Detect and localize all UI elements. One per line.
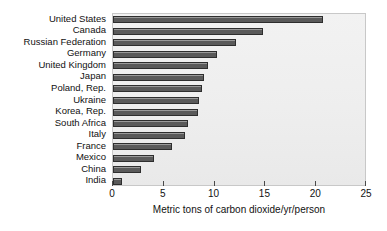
bar-series bbox=[113, 14, 365, 185]
category-label: Russian Federation bbox=[24, 37, 106, 47]
x-axis: 0510152025 bbox=[112, 186, 366, 206]
x-tick-label: 10 bbox=[208, 188, 219, 199]
bar bbox=[113, 85, 202, 92]
bar bbox=[113, 143, 172, 150]
category-label: United States bbox=[49, 14, 106, 24]
bar bbox=[113, 39, 236, 46]
x-tick-mark bbox=[214, 181, 215, 186]
category-label: Italy bbox=[89, 129, 106, 139]
category-label: Korea, Rep. bbox=[55, 106, 106, 116]
x-tick-label: 15 bbox=[259, 188, 270, 199]
x-tick-mark bbox=[264, 181, 265, 186]
category-label: India bbox=[85, 175, 106, 185]
bar bbox=[113, 28, 263, 35]
bar bbox=[113, 109, 198, 116]
category-axis: United StatesCanadaRussian FederationGer… bbox=[0, 13, 109, 186]
bar bbox=[113, 178, 122, 185]
bar bbox=[113, 132, 185, 139]
category-label: Germany bbox=[67, 48, 106, 58]
x-tick-label: 25 bbox=[360, 188, 371, 199]
x-tick-mark bbox=[365, 181, 366, 186]
bar bbox=[113, 166, 141, 173]
category-label: Ukraine bbox=[73, 95, 106, 105]
category-label: France bbox=[76, 141, 106, 151]
bar bbox=[113, 51, 217, 58]
x-axis-title: Metric tons of carbon dioxide/yr/person bbox=[112, 204, 366, 215]
category-label: Japan bbox=[80, 71, 106, 81]
bar bbox=[113, 16, 323, 23]
bar bbox=[113, 120, 188, 127]
category-label: Mexico bbox=[76, 152, 106, 162]
x-tick-label: 20 bbox=[310, 188, 321, 199]
category-label: South Africa bbox=[55, 118, 106, 128]
x-tick-mark bbox=[163, 181, 164, 186]
category-label: China bbox=[81, 164, 106, 174]
category-label: Poland, Rep. bbox=[51, 83, 106, 93]
category-label: Canada bbox=[73, 25, 106, 35]
bar bbox=[113, 74, 204, 81]
x-tick-label: 0 bbox=[109, 188, 115, 199]
bar bbox=[113, 62, 208, 69]
bar bbox=[113, 155, 154, 162]
bar bbox=[113, 97, 199, 104]
category-label: United Kingdom bbox=[38, 60, 106, 70]
x-tick-mark bbox=[112, 181, 113, 186]
plot-area bbox=[112, 13, 366, 186]
x-tick-mark bbox=[315, 181, 316, 186]
x-tick-label: 5 bbox=[160, 188, 166, 199]
chart-figure: United StatesCanadaRussian FederationGer… bbox=[0, 0, 387, 231]
